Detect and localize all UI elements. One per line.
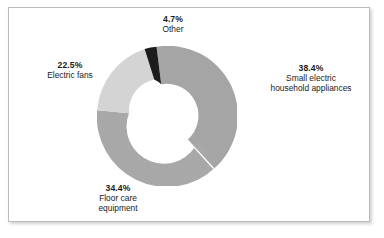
slice-label-electric-fans: 22.5% Electric fans [14, 60, 126, 80]
slice-label-small-appliances-name-line1: Small electric [245, 73, 377, 83]
slice-label-electric-fans-percent: 22.5% [14, 60, 126, 70]
slice-label-other-percent: 4.7% [118, 14, 228, 24]
slice-label-floor-care-name-line2: equipment [60, 203, 176, 213]
slice-electric-fans[interactable] [97, 49, 154, 113]
slice-label-electric-fans-name: Electric fans [14, 70, 126, 80]
slice-label-other: 4.7% Other [118, 14, 228, 34]
slice-label-floor-care: 34.4% Floor care equipment [60, 183, 176, 214]
slice-label-floor-care-name-line1: Floor care [60, 193, 176, 203]
slice-label-other-name: Other [118, 24, 228, 34]
chart-figure: 4.7% Other 22.5% Electric fans 38.4% Sma… [0, 0, 384, 238]
slice-label-small-appliances-name-line2: household appliances [245, 83, 377, 93]
slice-floor-care-equipment[interactable] [97, 110, 215, 186]
slice-label-small-appliances: 38.4% Small electric household appliance… [245, 63, 377, 94]
slice-label-floor-care-percent: 34.4% [60, 183, 176, 193]
donut-chart: 4.7% Other 22.5% Electric fans 38.4% Sma… [0, 0, 384, 238]
slice-label-small-appliances-percent: 38.4% [245, 63, 377, 73]
